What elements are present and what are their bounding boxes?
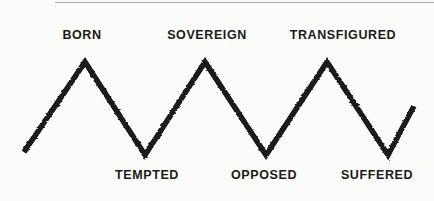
diagram-canvas: BORN SOVEREIGN TRANSFIGURED TEMPTED OPPO… [0, 0, 434, 201]
valley-label-suffered: SUFFERED [341, 169, 413, 182]
peak-label-sovereign: SOVEREIGN [167, 29, 247, 42]
valley-label-tempted: TEMPTED [115, 169, 179, 182]
peak-label-transfigured: TRANSFIGURED [290, 29, 397, 42]
valley-label-opposed: OPPOSED [231, 169, 297, 182]
peak-label-born: BORN [62, 29, 101, 42]
zigzag-path-overstroke [24, 62, 414, 155]
zigzag-path-group [24, 62, 414, 155]
